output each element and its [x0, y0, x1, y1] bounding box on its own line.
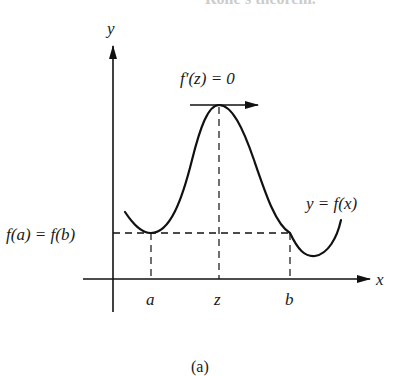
- tick-z: z: [213, 290, 221, 309]
- x-axis-label: x: [375, 270, 384, 289]
- header-fragment: Rolle's theorem.: [205, 0, 316, 7]
- level-label: f(a) = f(b): [6, 225, 75, 244]
- y-axis-label: y: [105, 19, 115, 38]
- derivative-label: f′(z) = 0: [180, 69, 235, 88]
- curve-label: y = f(x): [304, 194, 357, 213]
- figure-caption: (a): [191, 358, 209, 376]
- tick-b: b: [285, 290, 294, 309]
- tick-a: a: [146, 290, 155, 309]
- rolle-theorem-diagram: Rolle's theorem. y x f′(z) = 0 f(a) = f(…: [0, 0, 395, 376]
